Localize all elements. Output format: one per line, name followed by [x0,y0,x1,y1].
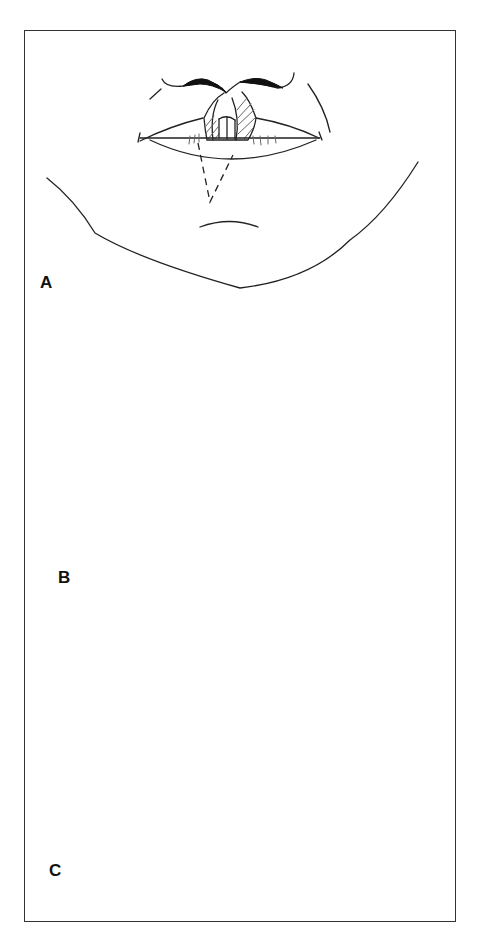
panel-label-b: B [58,568,70,588]
lip-repair-illustration [0,0,480,935]
panel-label-c: C [49,861,61,881]
panel-label-a: A [40,273,52,293]
panel-a-drawing [47,73,418,288]
